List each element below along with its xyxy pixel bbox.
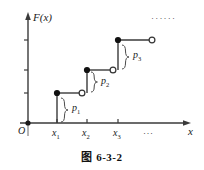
y-axis-group [24, 12, 31, 136]
jump-label-p2: p2 [101, 76, 109, 89]
origin-dot [25, 120, 30, 125]
jump-brace-3 [122, 45, 129, 69]
figure-container: F(x) x O x1 x2 x3 ··· ······ p1 p2 p3 图 … [0, 0, 204, 170]
x-axis-ellipsis: ··· [143, 129, 154, 138]
y-axis-arrowhead [25, 12, 31, 20]
jump-label-p2-sub: 2 [106, 81, 109, 88]
jump-label-p1: p1 [72, 103, 80, 116]
x-tick-label-3-sub: 3 [117, 133, 120, 140]
x-tick-label-2: x2 [82, 128, 90, 141]
jump-brace-2 [91, 72, 97, 92]
jump-label-p1-sub: 1 [77, 108, 80, 115]
jump-label-p3-sub: 3 [138, 55, 141, 62]
x-tick-label-3: x3 [113, 128, 121, 141]
open-endpoint-3 [149, 37, 155, 43]
y-axis-label: F(x) [33, 12, 52, 23]
x-tick-label-1-sub: 1 [56, 133, 59, 140]
closed-endpoint-2 [84, 67, 90, 73]
open-endpoint-1 [79, 90, 85, 96]
jump-brace-1 [61, 98, 68, 122]
open-endpoint-2 [110, 67, 116, 73]
origin-label: O [18, 126, 25, 136]
figure-caption: 图 6-3-2 [0, 148, 204, 164]
x-tick-label-2-sub: 2 [86, 133, 89, 140]
x-axis-label: x [188, 126, 193, 137]
top-right-ellipsis: ······ [151, 14, 176, 23]
x-tick-label-1: x1 [52, 128, 60, 141]
closed-endpoint-3 [115, 37, 121, 43]
jump-label-p3: p3 [133, 50, 141, 63]
closed-endpoint-1 [54, 90, 60, 96]
x-axis-group [20, 119, 191, 126]
